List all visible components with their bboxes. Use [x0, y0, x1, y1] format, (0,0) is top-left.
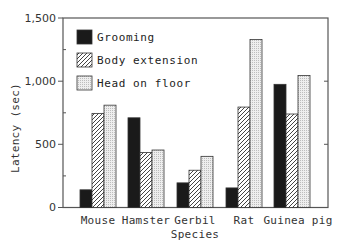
y-tick-labels: 0 500 1,000 1,500 [25, 12, 57, 214]
legend-item-body-extension: Body extension [77, 53, 198, 67]
legend-label: Head on floor [97, 77, 191, 90]
bar-grooming-mouse [80, 190, 92, 208]
x-tick-label: Mouse [81, 214, 116, 227]
bar-body-extension-mouse [92, 113, 104, 207]
bar-head-on-floor-guinea-pig [298, 75, 310, 207]
x-tick-label: Hamster [122, 214, 171, 227]
bar-grooming-gerbil [177, 183, 189, 208]
x-tick-label: Guinea pig [263, 214, 332, 227]
legend-label: Body extension [97, 54, 198, 67]
bar-body-extension-hamster [140, 153, 152, 208]
x-tick-label: Rat [234, 214, 255, 227]
x-tick-label: Gerbil [174, 214, 216, 227]
bar-head-on-floor-gerbil [201, 156, 213, 207]
bar-head-on-floor-mouse [104, 105, 116, 207]
bar-grooming-hamster [128, 118, 140, 208]
legend: Grooming Body extension Head on floor [77, 30, 198, 90]
bar-grooming-guinea-pig [274, 84, 286, 207]
legend-item-grooming: Grooming [77, 30, 155, 44]
bar-body-extension-guinea-pig [286, 114, 298, 207]
bar-body-extension-gerbil [189, 170, 201, 207]
bar-head-on-floor-hamster [152, 150, 164, 207]
y-tick-label: 500 [35, 138, 56, 151]
bar-grooming-rat [226, 188, 238, 208]
y-tick-label: 0 [49, 201, 56, 214]
bar-head-on-floor-rat [250, 39, 262, 207]
legend-item-head-on-floor: Head on floor [77, 76, 191, 90]
bar-body-extension-rat [238, 107, 250, 207]
bar-chart: 0 500 1,000 1,500 Latency (sec) Mouse Ha… [0, 0, 342, 250]
y-tick-label: 1,000 [25, 75, 57, 88]
y-axis-title: Latency (sec) [9, 83, 22, 173]
x-tick-labels: Mouse Hamster Gerbil Rat Guinea pig [81, 214, 333, 227]
y-tick-label: 1,500 [25, 12, 57, 25]
legend-label: Grooming [97, 31, 155, 44]
x-axis-title: Species [171, 228, 219, 241]
